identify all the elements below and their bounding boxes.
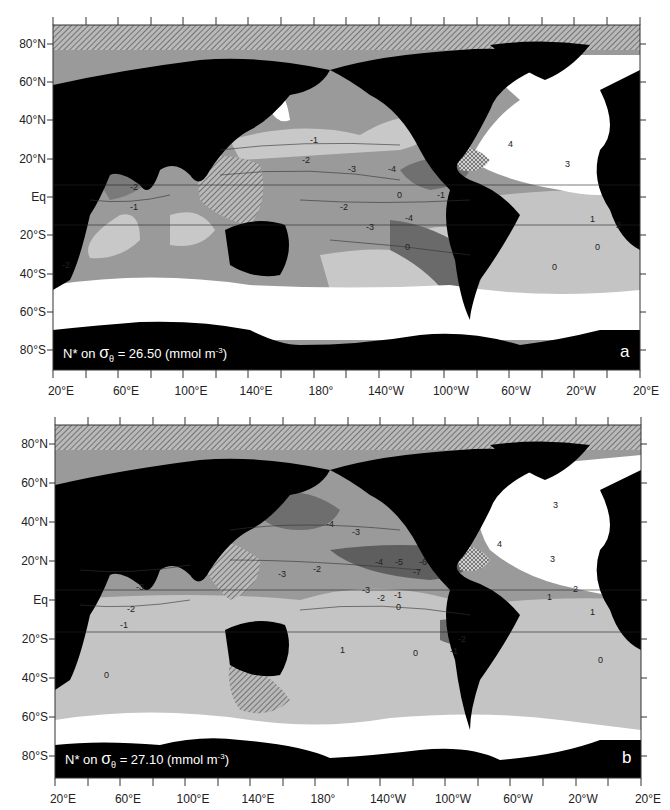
contour-label: -2 — [127, 604, 135, 614]
lon-label: 100°W — [423, 793, 483, 805]
contour-label: 2 — [573, 584, 578, 594]
contour-label: 2 — [616, 220, 621, 230]
lon-label: 60°W — [488, 793, 548, 805]
lat-label: 60°S — [2, 711, 48, 723]
lat-label: 60°N — [0, 76, 46, 88]
lon-label: 140°W — [356, 385, 416, 397]
lat-label: 20°N — [0, 153, 46, 165]
contour-label: -3 — [366, 222, 374, 232]
panel-title: N* on σθ = 26.50 (mmol m-3) — [63, 344, 227, 364]
lon-label: 20°E — [33, 793, 93, 805]
lon-label: 60°E — [96, 385, 156, 397]
contour-label: -4 — [405, 213, 413, 223]
lat-label: 80°N — [2, 438, 48, 450]
contour-label: -6 — [419, 557, 427, 567]
contour-label: -4 — [388, 164, 396, 174]
contour-label: -2 — [458, 634, 466, 644]
contour-label: 0 — [595, 242, 600, 252]
contour-label: -3 — [136, 582, 144, 592]
lon-label: 100°E — [163, 793, 223, 805]
panel-letter: a — [620, 342, 629, 362]
contour-label: 0 — [413, 648, 418, 658]
contour-label: 0 — [405, 242, 410, 252]
lon-label: 180° — [291, 385, 351, 397]
lon-label: 20°E — [31, 385, 91, 397]
lon-label: 140°E — [228, 793, 288, 805]
contour-label: -3 — [348, 164, 356, 174]
contour-label: -5 — [395, 557, 403, 567]
contour-label: 4 — [497, 539, 502, 549]
contour-label: -1 — [394, 590, 402, 600]
contour-label: 1 — [340, 645, 345, 655]
lat-label: Eq — [2, 594, 48, 606]
lon-label: 140°E — [226, 385, 286, 397]
contour-label: -2 — [130, 182, 138, 192]
lon-label: 100°W — [421, 385, 481, 397]
lon-label: 20°E — [616, 385, 670, 397]
contour-label: 3 — [550, 554, 555, 564]
contour-label: 1 — [547, 592, 552, 602]
lon-label: 20°W — [553, 793, 613, 805]
lat-label: 40°S — [0, 268, 46, 280]
lon-label: 20°W — [551, 385, 611, 397]
contour-label: 3 — [553, 500, 558, 510]
lon-label: 60°E — [98, 793, 158, 805]
panel-letter: b — [622, 748, 631, 768]
contour-label: -2 — [377, 593, 385, 603]
lat-label: 20°S — [2, 633, 48, 645]
lon-label: 20°E — [618, 793, 670, 805]
lon-label: 100°E — [161, 385, 221, 397]
lon-label: 180° — [293, 793, 353, 805]
map-b: -4 -3 -3 -2 -4 -5 -6 -7 -3 -2 -1 0 1 0 -… — [0, 400, 670, 810]
contour-label: -4 — [326, 519, 334, 529]
contour-label: -1 — [310, 135, 318, 145]
contour-label: 0 — [552, 262, 557, 272]
contour-label: -1 — [450, 646, 458, 656]
lon-label: 60°W — [486, 385, 546, 397]
lat-label: 40°N — [0, 114, 46, 126]
contour-label: -2 — [62, 260, 70, 270]
lat-label: 40°N — [2, 516, 48, 528]
lat-label: 80°S — [2, 750, 48, 762]
lat-label: 80°N — [0, 38, 46, 50]
contour-label: -1 — [130, 202, 138, 212]
contour-label: -2 — [302, 155, 310, 165]
map-a: -1 -2 -3 -4 0 -1 -2 -3 -4 0 4 3 2 1 0 0 … — [0, 0, 670, 400]
panel-title: N* on σθ = 27.10 (mmol m-3) — [65, 750, 229, 770]
contour-label: 3 — [565, 159, 570, 169]
lon-label: 140°W — [358, 793, 418, 805]
contour-label: 1 — [590, 607, 595, 617]
panel-a: -1 -2 -3 -4 0 -1 -2 -3 -4 0 4 3 2 1 0 0 … — [0, 0, 670, 400]
contour-label: 0 — [396, 602, 401, 612]
lat-label: 60°S — [0, 306, 46, 318]
lat-label: 60°N — [2, 477, 48, 489]
contour-label: -7 — [413, 567, 421, 577]
lat-label: 20°S — [0, 229, 46, 241]
contour-label: -3 — [362, 585, 370, 595]
contour-label: 1 — [590, 214, 595, 224]
lat-label: 40°S — [2, 672, 48, 684]
lat-label: 80°S — [0, 344, 46, 356]
contour-label: 0 — [104, 670, 109, 680]
contour-label: -2 — [313, 564, 321, 574]
panel-b: -4 -3 -3 -2 -4 -5 -6 -7 -3 -2 -1 0 1 0 -… — [0, 400, 670, 810]
contour-label: -3 — [278, 569, 286, 579]
contour-label: -1 — [120, 620, 128, 630]
contour-label: -2 — [340, 202, 348, 212]
contour-label: 0 — [598, 655, 603, 665]
contour-label: 0 — [397, 190, 402, 200]
contour-label: -1 — [437, 190, 445, 200]
contour-label: -4 — [375, 557, 383, 567]
lat-label: Eq — [0, 191, 46, 203]
contour-label: 4 — [508, 139, 513, 149]
contour-label: -3 — [352, 527, 360, 537]
lat-label: 20°N — [2, 555, 48, 567]
